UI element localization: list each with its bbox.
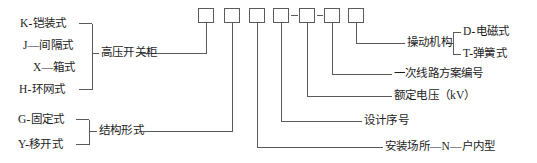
left-item-j: J—间隔式: [23, 40, 73, 51]
left-item-g: G-固定式: [18, 114, 64, 125]
left-item-x: X—箱式: [33, 62, 76, 73]
group-label-high-voltage-switchgear: 高压开关柜: [101, 47, 157, 58]
right-label-installation-site: 安装场所—N—户内型: [385, 141, 495, 152]
right-label-operating-mechanism: 操动机构: [407, 37, 452, 48]
left-item-h: H-环网式: [19, 84, 65, 95]
connector-lines: [0, 0, 537, 163]
right-label-primary-circuit-scheme-number: 一次线路方案编号: [394, 68, 484, 79]
left-item-y: Y-移开式: [18, 139, 63, 150]
right-label-rated-voltage: 额定电压（kV）: [394, 90, 476, 101]
right-subitem-d: D-电磁式: [463, 26, 509, 37]
diagram-canvas: K-铠装式 J—间隔式 X—箱式 H-环网式 高压开关柜 G-固定式 Y-移开式…: [0, 0, 537, 163]
right-label-design-serial-number: 设计序号: [364, 115, 409, 126]
right-subitem-t: T-弹簧式: [463, 48, 507, 59]
group-label-structure-form: 结构形式: [99, 125, 144, 136]
left-item-k: K-铠装式: [20, 18, 66, 29]
